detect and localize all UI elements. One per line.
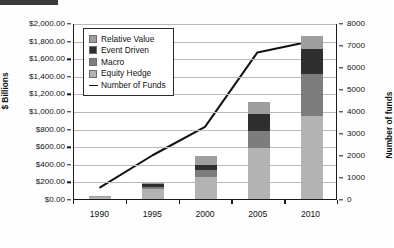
y-tick-label-right: 3000: [347, 130, 365, 138]
legend-item-label: Event Driven: [101, 46, 149, 54]
stacked-bar: [89, 196, 111, 199]
bar-segment-macro: [248, 131, 270, 148]
legend-item-label: Relative Value: [101, 35, 154, 43]
y-tick-label-right: 7000: [347, 42, 365, 50]
y-tick-label-left: $1,400.00: [29, 73, 65, 81]
bar-segment-relative-value: [248, 102, 270, 114]
y-tick-mark-left: [67, 58, 71, 59]
y-tick-mark-right: [339, 89, 343, 90]
gridline: [74, 130, 336, 131]
bar-segment-equity-hedge: [195, 177, 217, 199]
y-tick-label-left: $200.00: [36, 178, 65, 186]
y-tick-label-left: $1,200.00: [29, 90, 65, 98]
y-tick-mark-right: [339, 45, 343, 46]
gridline: [74, 147, 336, 148]
x-tick-label: 1995: [143, 210, 162, 219]
legend-item: Macro: [89, 56, 166, 68]
y-tick-label-right: 6000: [347, 64, 365, 72]
x-tick-label: 2000: [195, 210, 214, 219]
y-tick-mark-right: [339, 133, 343, 134]
chart-legend: Relative ValueEvent DrivenMacroEquity He…: [83, 28, 174, 96]
y-tick-mark-left: [67, 146, 71, 147]
bar-segment-relative-value: [301, 36, 323, 48]
y-tick-label-right: 4000: [347, 108, 365, 116]
gridline: [74, 112, 336, 113]
y-tick-mark-right: [339, 155, 343, 156]
legend-color-swatch-icon: [89, 46, 97, 54]
gridline: [74, 24, 336, 25]
stacked-bar: [248, 102, 270, 199]
x-axis-labels: 19901995200020052010: [73, 204, 337, 224]
bar-segment-event-driven: [142, 184, 164, 186]
bar-segment-macro: [195, 170, 217, 177]
y-tick-label-right: 1000: [347, 174, 365, 182]
bar-segment-relative-value: [195, 156, 217, 165]
y-tick-mark-left: [67, 182, 71, 183]
legend-item: Equity Hedge: [89, 68, 166, 80]
y-tick-label-right: 5000: [347, 86, 365, 94]
y-tick-label-left: $0.00: [45, 196, 65, 204]
y-tick-mark-left: [67, 41, 71, 42]
y-tick-mark-left: [67, 94, 71, 95]
legend-item: Relative Value: [89, 33, 166, 45]
y-tick-label-right: 0: [347, 196, 352, 204]
y-tick-label-left: $1,600.00: [29, 55, 65, 63]
page-edge-artifact: [0, 0, 58, 5]
bar-segment-relative-value: [142, 183, 164, 185]
y-tick-mark-left: [67, 111, 71, 112]
x-tick-label: 1990: [90, 210, 109, 219]
y-tick-mark-right: [339, 177, 343, 178]
y-tick-mark-right: [339, 23, 343, 24]
y-tick-label-left: $400.00: [36, 161, 65, 169]
bar-segment-event-driven: [89, 196, 111, 197]
bar-segment-equity-hedge: [142, 189, 164, 199]
legend-color-swatch-icon: [89, 35, 97, 43]
bar-segment-equity-hedge: [248, 148, 270, 199]
legend-item-label: Number of Funds: [101, 81, 166, 89]
y-tick-mark-right: [339, 67, 343, 68]
bar-segment-equity-hedge: [301, 116, 323, 199]
x-tick-label: 2010: [301, 210, 320, 219]
legend-color-swatch-icon: [89, 70, 97, 78]
y-tick-label-right: 8000: [347, 20, 365, 28]
y-tick-label-left: $600.00: [36, 143, 65, 151]
y-tick-mark-left: [67, 164, 71, 165]
y-tick-mark-left: [67, 76, 71, 77]
y-tick-label-left: $2,000.00: [29, 20, 65, 28]
legend-item: Event Driven: [89, 45, 166, 57]
y-tick-label-left: $1,000.00: [29, 108, 65, 116]
legend-item-label: Macro: [101, 58, 124, 66]
bar-segment-event-driven: [248, 114, 270, 132]
stacked-bar: [301, 36, 323, 199]
legend-item: Number of Funds: [89, 79, 166, 91]
bar-segment-macro: [142, 187, 164, 190]
y-tick-mark-left: [67, 199, 71, 200]
y-axis-right-ticks: 010002000300040005000600070008000: [339, 24, 388, 200]
y-tick-mark-left: [67, 129, 71, 130]
stacked-bar: [195, 156, 217, 199]
y-tick-label-left: $1,800.00: [29, 38, 65, 46]
legend-item-label: Equity Hedge: [101, 69, 151, 77]
bar-segment-event-driven: [195, 165, 217, 170]
x-tick-label: 2005: [248, 210, 267, 219]
stacked-bar: [142, 183, 164, 199]
bar-segment-macro: [89, 196, 111, 197]
legend-color-swatch-icon: [89, 58, 97, 66]
bar-segment-macro: [301, 74, 323, 116]
bar-segment-equity-hedge: [89, 197, 111, 199]
y-axis-left-ticks: $0.00$200.00$400.00$600.00$800.00$1,000.…: [0, 24, 71, 200]
x-tick-mark: [337, 200, 338, 204]
y-tick-mark-right: [339, 199, 343, 200]
y-tick-label-right: 2000: [347, 152, 365, 160]
bar-segment-event-driven: [301, 49, 323, 75]
y-tick-mark-right: [339, 111, 343, 112]
y-tick-label-left: $800.00: [36, 126, 65, 134]
legend-line-swatch-icon: [89, 81, 97, 89]
y-tick-mark-left: [67, 23, 71, 24]
